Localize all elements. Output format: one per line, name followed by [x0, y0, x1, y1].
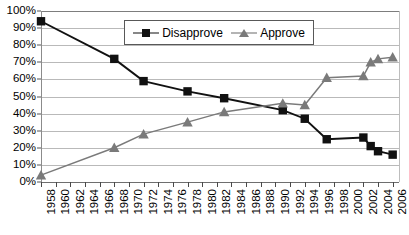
- legend-label-approve: Approve: [260, 26, 305, 40]
- data-point-triangle: [109, 143, 119, 152]
- data-point-square: [220, 94, 228, 102]
- data-point-square: [301, 115, 309, 123]
- square-marker-icon: [133, 27, 159, 39]
- data-point-triangle: [387, 52, 397, 61]
- chart-legend: Disapprove Approve: [124, 20, 314, 45]
- data-point-square: [183, 87, 191, 95]
- data-point-square: [374, 147, 382, 155]
- series-approve: [36, 52, 398, 179]
- legend-label-disapprove: Disapprove: [162, 26, 223, 40]
- legend-item-approve: Approve: [231, 26, 305, 40]
- data-point-square: [359, 133, 367, 141]
- data-point-square: [388, 150, 396, 158]
- data-point-square: [110, 55, 118, 63]
- data-point-triangle: [278, 98, 288, 107]
- data-point-square: [366, 142, 374, 150]
- data-point-square: [37, 17, 45, 25]
- legend-item-disapprove: Disapprove: [133, 26, 223, 40]
- data-point-square: [139, 77, 147, 85]
- data-point-triangle: [36, 170, 46, 179]
- series-line: [41, 57, 393, 175]
- triangle-marker-icon: [231, 27, 257, 39]
- data-point-square: [323, 135, 331, 143]
